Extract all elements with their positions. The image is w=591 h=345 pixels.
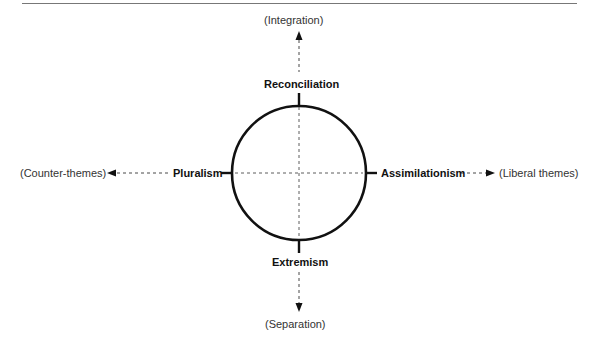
pole-liberal-themes: (Liberal themes) bbox=[499, 167, 578, 180]
arrow-down-icon bbox=[296, 303, 303, 312]
arrow-left-icon bbox=[107, 170, 116, 177]
pole-counter-themes: (Counter-themes) bbox=[20, 167, 106, 180]
strategy-pluralism: Pluralism bbox=[173, 167, 223, 180]
arrow-right-icon bbox=[486, 170, 495, 177]
strategy-assimilationism: Assimilationism bbox=[381, 167, 465, 180]
strategy-reconciliation: Reconciliation bbox=[264, 78, 339, 91]
strategy-extremism: Extremism bbox=[272, 256, 328, 269]
pole-integration: (Integration) bbox=[264, 14, 323, 27]
arrow-up-icon bbox=[296, 31, 303, 40]
pole-separation: (Separation) bbox=[265, 318, 326, 331]
